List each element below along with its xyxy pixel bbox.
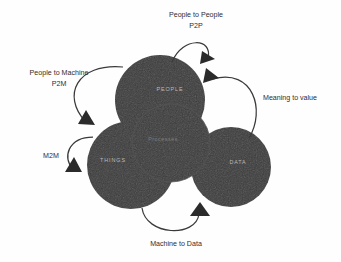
p2p-label-line1: People to People: [169, 11, 223, 19]
m2m-label-group: M2M: [43, 152, 59, 160]
p2p-label-line2: P2P: [189, 22, 203, 30]
machine-to-data-label-group: Machine to Data: [150, 240, 202, 248]
p2p-label-group: People to People P2P: [169, 11, 223, 30]
iot-framework-diagram: PEOPLE THINGS DATA Processes: [0, 0, 341, 262]
p2m-arrowhead: [78, 110, 95, 125]
machine-to-data-arrowhead: [190, 202, 210, 216]
data-label: DATA: [229, 159, 246, 165]
meaning-to-value-label-group: Meaning to value: [263, 94, 317, 102]
machine-to-data-label-line1: Machine to Data: [150, 240, 202, 248]
meaning-to-value-label-line1: Meaning to value: [263, 94, 317, 102]
meaning-to-value-arrowhead: [203, 68, 219, 83]
m2m-label-line1: M2M: [43, 152, 59, 160]
p2m-label-group: People to Machine P2M: [30, 69, 89, 88]
p2p-arrowhead: [200, 51, 215, 64]
p2m-label-line1: People to Machine: [30, 69, 89, 77]
people-label: PEOPLE: [157, 86, 184, 92]
p2m-label-line2: P2M: [52, 80, 67, 88]
things-label: THINGS: [100, 157, 126, 163]
machine-to-data-arrow: [142, 202, 210, 231]
diagram-canvas: PEOPLE THINGS DATA Processes: [0, 0, 341, 262]
node-circles: [87, 55, 271, 209]
processes-label: Processes: [148, 136, 178, 142]
